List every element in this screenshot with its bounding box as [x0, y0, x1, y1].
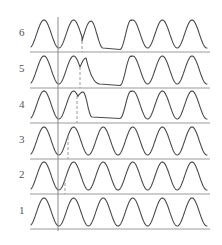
waveform-row-6: 6	[19, 20, 210, 52]
waveform-trace	[31, 20, 207, 50]
row-label: 6	[19, 26, 25, 38]
waveform-row-3: 3	[19, 127, 210, 159]
waveform-trace	[31, 91, 207, 119]
waveform-trace	[31, 162, 207, 190]
row-label: 4	[19, 98, 25, 110]
waveform-trace	[31, 56, 207, 86]
waveform-row-2: 2	[19, 162, 210, 194]
waveform-row-4: 4	[19, 91, 210, 123]
waveform-trace	[31, 127, 207, 155]
waveform-canvas: 654321	[0, 0, 222, 245]
row-label: 1	[19, 204, 25, 216]
waveform-trace	[31, 198, 207, 226]
waveform-row-5: 5	[19, 56, 210, 88]
row-label: 5	[19, 62, 25, 74]
waveform-row-1: 1	[19, 198, 210, 229]
rows-layer: 654321	[19, 20, 210, 229]
waveform-diagram: 654321	[0, 0, 222, 245]
row-label: 2	[19, 168, 25, 180]
row-label: 3	[19, 133, 25, 145]
